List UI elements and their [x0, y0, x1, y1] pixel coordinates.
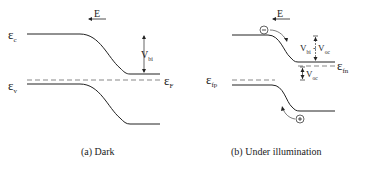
arrow-up-icon	[142, 35, 146, 39]
valence-band-b	[232, 85, 335, 111]
vbi-voc-label: Vbi - Voc	[300, 43, 330, 55]
arrow-up-icon	[301, 68, 305, 72]
ev-label: εv	[8, 78, 17, 95]
arrow-down-icon	[142, 69, 146, 73]
arrow-down-icon	[301, 75, 305, 79]
ef-label: εF	[164, 73, 173, 90]
arrow-up-icon	[314, 37, 318, 41]
panel-illuminated: E Vbi - Voc Voc ε	[206, 8, 349, 123]
electron-path-arrow	[270, 30, 286, 40]
panel-dark: E εc εv εF Vbi	[8, 8, 173, 124]
field-label-b: E	[277, 8, 283, 19]
caption-illuminated: (b) Under illumination	[231, 146, 322, 157]
efn-label: εfn	[337, 58, 349, 75]
arrow-left-icon	[272, 17, 276, 21]
efp-label: εfp	[206, 72, 218, 89]
field-label-a: E	[94, 8, 100, 19]
voc-label: Voc	[306, 69, 318, 81]
arrow-down-icon	[314, 57, 318, 61]
ec-label: εc	[8, 27, 17, 44]
arrow-left-icon	[88, 17, 92, 21]
vbi-label: Vbi	[141, 49, 153, 62]
hole-path-arrow	[283, 109, 295, 119]
caption-dark: (a) Dark	[81, 146, 115, 157]
valence-band-a	[27, 84, 160, 124]
